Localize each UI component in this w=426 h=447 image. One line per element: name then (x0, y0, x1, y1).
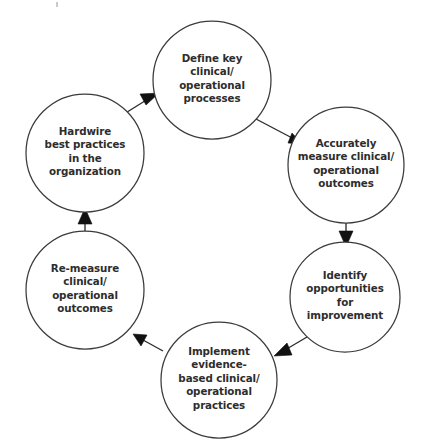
node-circle-group (26, 21, 404, 438)
node-implement-evidence-based-practices[interactable] (161, 322, 277, 438)
connector-implement-to-remeasure (133, 334, 163, 351)
node-hardwire-best-practices[interactable] (26, 94, 144, 212)
node-accurately-measure-outcomes[interactable] (288, 107, 404, 223)
node-define-key-processes[interactable] (153, 21, 271, 139)
node-identify-opportunities[interactable] (290, 242, 400, 352)
cycle-diagram: Define keyclinical/operationalprocesses … (0, 0, 426, 447)
node-re-measure-outcomes[interactable] (26, 231, 144, 349)
connector-identify-to-implement (274, 337, 307, 356)
connector-hardwire-to-define (124, 93, 159, 114)
diagram-canvas (0, 0, 426, 447)
